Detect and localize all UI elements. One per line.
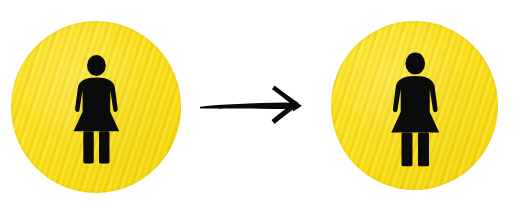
scene-canvas — [0, 0, 518, 212]
sticker-left[interactable] — [11, 21, 181, 193]
sticker-right[interactable] — [331, 21, 498, 190]
female-restroom-icon — [376, 43, 454, 177]
female-restroom-icon — [59, 52, 134, 167]
arrow-right-icon — [198, 78, 316, 134]
